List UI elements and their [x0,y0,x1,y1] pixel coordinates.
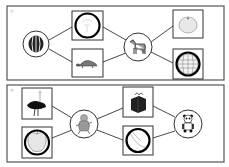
node-gift[interactable] [123,87,153,117]
panel-1: ① [7,6,224,80]
node-globe[interactable] [173,49,203,79]
panda-icon [183,114,193,132]
node-zebra[interactable] [124,33,152,61]
panel-2: ② [7,85,224,162]
node-apple[interactable] [22,127,52,158]
node-orange[interactable] [173,10,203,38]
panel-1-label: ① [10,9,14,14]
panel-2-label: ② [10,88,14,93]
node-watermelon[interactable] [23,31,49,57]
node-peel[interactable] [123,126,153,155]
watermelon-icon [29,36,44,53]
globe-ball-icon [178,54,198,74]
node-ostrich[interactable] [22,88,52,119]
worksheet-canvas: ① [0,0,229,167]
node-turtle[interactable] [72,49,103,77]
node-sketch[interactable] [72,11,103,40]
node-panda[interactable] [174,110,202,138]
apple-icon [28,131,46,152]
orange-icon [179,17,197,33]
node-monkey[interactable] [70,110,98,138]
